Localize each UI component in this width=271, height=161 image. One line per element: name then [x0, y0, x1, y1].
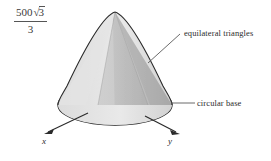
axis-y — [145, 116, 180, 135]
cone-body — [58, 12, 172, 125]
expression-coefficient: 500 — [16, 6, 33, 18]
leader-line-equilateral — [148, 34, 180, 63]
axis-label-x: x — [42, 136, 46, 146]
axis-x — [44, 113, 88, 134]
label-circular-base: circular base — [197, 98, 241, 108]
expression-radicand: 3 — [39, 6, 46, 19]
figure-canvas: 500√3 3 equilateral triangles circular b… — [0, 0, 271, 161]
expression-numerator: 500√3 — [14, 6, 47, 20]
volume-expression: 500√3 3 — [14, 6, 47, 35]
label-equilateral-triangles: equilateral triangles — [184, 28, 253, 38]
expression-denominator: 3 — [14, 23, 47, 35]
square-root-icon: √3 — [33, 6, 46, 19]
x-axis-arrowhead — [44, 129, 54, 134]
axis-label-y: y — [168, 136, 172, 146]
y-axis-arrowhead — [170, 130, 180, 135]
fraction-bar — [14, 21, 47, 22]
